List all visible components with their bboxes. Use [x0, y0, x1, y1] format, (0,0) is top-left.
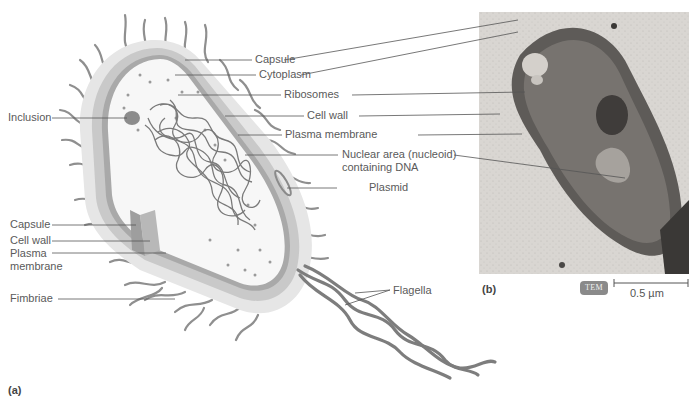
panel-label-a: (a) [8, 384, 21, 396]
scale-bar [614, 279, 688, 287]
label-flagella: Flagella [393, 284, 432, 297]
label-fimbriae: Fimbriae [10, 292, 53, 305]
label-cytoplasm: Cytoplasm [259, 68, 311, 81]
label-plasma-left: Plasma [10, 247, 47, 260]
label-nucleoid: Nuclear area (nucleoid) [342, 148, 456, 161]
label-capsule: Capsule [255, 53, 295, 66]
panel-label-b: (b) [482, 283, 496, 295]
label-plasmid: Plasmid [369, 181, 408, 194]
tem-badge: TEM [580, 281, 608, 295]
label-nucleoid-dna: containing DNA [342, 161, 418, 174]
tem-micrograph [479, 12, 689, 274]
label-ribosomes: Ribosomes [284, 88, 339, 101]
bacterium-diagram [0, 0, 692, 406]
scale-bar-label: 0.5 µm [630, 287, 664, 299]
flagella [298, 266, 495, 378]
label-cell-wall-left: Cell wall [10, 234, 51, 247]
label-cell-wall: Cell wall [307, 109, 348, 122]
label-membrane-left: membrane [10, 260, 63, 273]
label-plasma-membrane: Plasma membrane [285, 128, 377, 141]
label-inclusion: Inclusion [8, 111, 51, 124]
label-capsule-left: Capsule [10, 218, 50, 231]
